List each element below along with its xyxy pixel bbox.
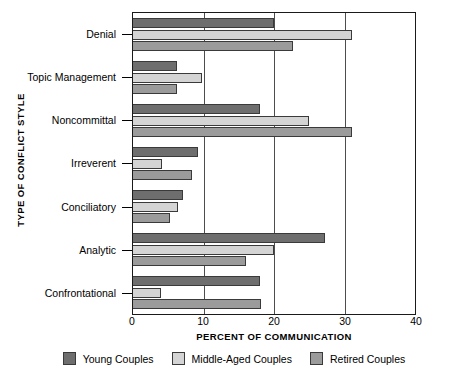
category-tick bbox=[122, 99, 132, 142]
legend: Young CouplesMiddle-Aged CouplesRetired … bbox=[0, 352, 468, 365]
bar-group bbox=[133, 142, 415, 185]
bar[interactable] bbox=[133, 116, 309, 126]
bar-row bbox=[133, 299, 415, 309]
bar[interactable] bbox=[133, 245, 274, 255]
x-axis-title: PERCENT OF COMMUNICATION bbox=[132, 331, 416, 342]
bar-row bbox=[133, 61, 415, 71]
bar-row bbox=[133, 202, 415, 212]
bar[interactable] bbox=[133, 127, 352, 137]
bar[interactable] bbox=[133, 256, 246, 266]
bar[interactable] bbox=[133, 170, 192, 180]
category-tick bbox=[122, 228, 132, 271]
bar-group bbox=[133, 185, 415, 228]
category-tick bbox=[122, 12, 132, 55]
bar-row bbox=[133, 73, 415, 83]
bar[interactable] bbox=[133, 73, 202, 83]
category-tick bbox=[122, 142, 132, 185]
bar[interactable] bbox=[133, 190, 183, 200]
bar[interactable] bbox=[133, 41, 293, 51]
bar-row bbox=[133, 104, 415, 114]
legend-item[interactable]: Middle-Aged Couples bbox=[172, 352, 292, 365]
legend-item[interactable]: Young Couples bbox=[63, 352, 154, 365]
category-label: Conciliatory bbox=[18, 185, 122, 228]
category-tick bbox=[122, 272, 132, 315]
bar[interactable] bbox=[133, 30, 352, 40]
bar-row bbox=[133, 233, 415, 243]
bar-group bbox=[133, 99, 415, 142]
bar-row bbox=[133, 159, 415, 169]
bar-row bbox=[133, 41, 415, 51]
bar-group bbox=[133, 271, 415, 314]
bar-group bbox=[133, 228, 415, 271]
category-label: Topic Management bbox=[18, 55, 122, 98]
bar[interactable] bbox=[133, 213, 170, 223]
legend-label: Middle-Aged Couples bbox=[192, 353, 292, 365]
bar-row bbox=[133, 147, 415, 157]
category-axis-labels: DenialTopic ManagementNoncommittalIrreve… bbox=[18, 12, 122, 315]
bar-row bbox=[133, 276, 415, 286]
legend-item[interactable]: Retired Couples bbox=[310, 352, 405, 365]
bar-row bbox=[133, 256, 415, 266]
x-tick-label: 0 bbox=[129, 315, 135, 327]
bar[interactable] bbox=[133, 299, 261, 309]
bar[interactable] bbox=[133, 202, 178, 212]
x-tick-label: 40 bbox=[410, 315, 422, 327]
legend-label: Retired Couples bbox=[330, 353, 405, 365]
bar-row bbox=[133, 213, 415, 223]
legend-swatch-icon bbox=[310, 352, 323, 365]
category-tick bbox=[122, 185, 132, 228]
bar[interactable] bbox=[133, 159, 162, 169]
category-label: Noncommittal bbox=[18, 99, 122, 142]
plot-area bbox=[132, 12, 416, 315]
bar[interactable] bbox=[133, 147, 198, 157]
category-label: Irreverent bbox=[18, 142, 122, 185]
bar[interactable] bbox=[133, 104, 260, 114]
bar-row bbox=[133, 288, 415, 298]
category-label: Confrontational bbox=[18, 272, 122, 315]
legend-swatch-icon bbox=[63, 352, 76, 365]
category-label: Denial bbox=[18, 12, 122, 55]
category-label: Analytic bbox=[18, 228, 122, 271]
x-tick-label: 20 bbox=[268, 315, 280, 327]
x-tick-label: 30 bbox=[339, 315, 351, 327]
bar[interactable] bbox=[133, 84, 177, 94]
bar-row bbox=[133, 30, 415, 40]
bar-group bbox=[133, 56, 415, 99]
bar[interactable] bbox=[133, 18, 274, 28]
category-axis-ticks bbox=[122, 12, 132, 315]
bar[interactable] bbox=[133, 233, 325, 243]
legend-label: Young Couples bbox=[83, 353, 154, 365]
bar-row bbox=[133, 116, 415, 126]
bar[interactable] bbox=[133, 61, 177, 71]
bar-row bbox=[133, 245, 415, 255]
bar-row bbox=[133, 18, 415, 28]
bar[interactable] bbox=[133, 288, 161, 298]
x-axis-tick-labels: 010203040 bbox=[132, 315, 416, 329]
bar-row bbox=[133, 170, 415, 180]
bar[interactable] bbox=[133, 276, 260, 286]
bar-group bbox=[133, 13, 415, 56]
bar-row bbox=[133, 84, 415, 94]
bar-row bbox=[133, 127, 415, 137]
bar-chart: TYPE OF CONFLICT STYLE DenialTopic Manag… bbox=[0, 0, 468, 382]
x-tick-label: 10 bbox=[197, 315, 209, 327]
legend-swatch-icon bbox=[172, 352, 185, 365]
bar-row bbox=[133, 190, 415, 200]
bar-groups bbox=[133, 13, 415, 314]
category-tick bbox=[122, 55, 132, 98]
